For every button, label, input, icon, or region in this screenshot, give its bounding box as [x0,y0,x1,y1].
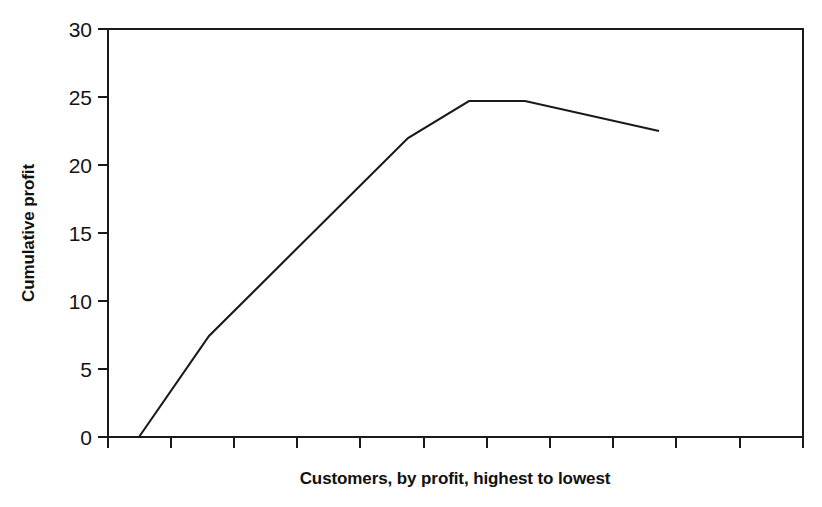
chart-container: 0 5 10 15 20 25 30 Custome [0,0,822,507]
chart-background [0,0,822,507]
y-tick-label-0: 0 [80,426,92,449]
y-tick-label-5: 5 [80,358,92,381]
y-tick-label-30: 30 [69,18,92,41]
y-tick-label-25: 25 [69,86,92,109]
y-axis-title: Cumulative profit [19,164,38,303]
y-tick-label-10: 10 [69,290,92,313]
cumulative-profit-line-chart: 0 5 10 15 20 25 30 Custome [0,0,822,507]
y-tick-label-20: 20 [69,154,92,177]
y-tick-label-15: 15 [69,222,92,245]
x-axis-title: Customers, by profit, highest to lowest [300,469,611,488]
